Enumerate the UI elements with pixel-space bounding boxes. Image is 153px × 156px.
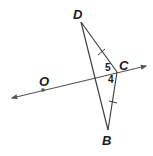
angle-5-label: 5 [105,62,111,73]
angle-4-label: 4 [108,74,114,85]
label-b: B [102,133,111,148]
label-o: O [39,74,49,89]
label-c: C [119,58,129,73]
segment-dc [81,22,117,72]
label-d: D [73,7,83,22]
geometry-diagram: D C B O 5 4 [0,0,153,156]
